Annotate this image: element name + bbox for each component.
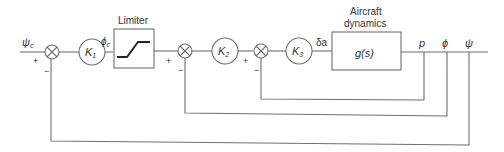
- sum3-minus: −: [254, 65, 259, 75]
- svg-text:g(s): g(s): [355, 47, 374, 59]
- sum3-plus: +: [243, 56, 248, 66]
- plant-title-1: Aircraft: [350, 6, 382, 17]
- gain-k3-block: K3: [286, 38, 312, 64]
- delta-a-label: δa: [316, 37, 328, 48]
- block-diagram: ψc + − K1 ϕc Limiter + − K2 + −: [0, 0, 504, 152]
- feedback-p: [261, 52, 424, 100]
- sum2-minus: −: [178, 65, 183, 75]
- svg-text:K3: K3: [292, 45, 303, 58]
- output-phi-label: ϕ: [442, 37, 448, 49]
- sum2-plus: +: [166, 56, 171, 66]
- gain-k2-block: K2: [212, 38, 238, 64]
- output-psi-label: ψ: [465, 37, 473, 49]
- input-label: ψc: [22, 36, 34, 50]
- limiter-title: Limiter: [118, 15, 149, 26]
- output-p-label: p: [418, 37, 425, 49]
- summing-junction-2: [178, 44, 192, 58]
- sum1-minus: −: [44, 66, 49, 76]
- saturation-icon: [117, 42, 150, 57]
- summing-junction-3: [254, 44, 268, 58]
- limiter-block: [114, 29, 154, 68]
- svg-text:K1: K1: [85, 46, 96, 59]
- sum1-plus: +: [33, 56, 38, 66]
- summing-junction-1: [45, 45, 59, 59]
- feedback-phi: [185, 52, 447, 116]
- phi-c-label: ϕc: [101, 36, 111, 48]
- plant-title-2: dynamics: [344, 18, 386, 29]
- aircraft-dynamics-block: g(s): [332, 32, 401, 70]
- svg-text:K2: K2: [218, 45, 229, 58]
